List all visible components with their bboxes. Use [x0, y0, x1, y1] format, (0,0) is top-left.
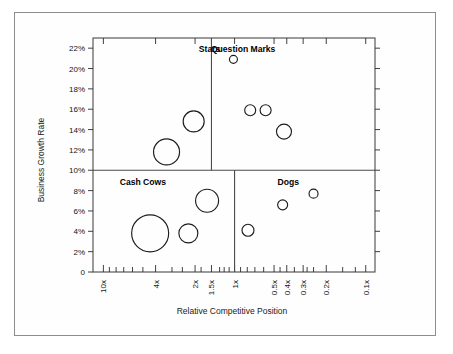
- bubble-question-marks: [276, 124, 291, 139]
- bubble-question-marks: [245, 105, 256, 116]
- bubble-question-marks: [229, 55, 237, 63]
- y-tick-label: 0: [81, 268, 86, 277]
- quadrant-label-question-marks: Question Marks: [211, 44, 276, 54]
- y-axis-tick-labels: 02%4%6%8%10%12%14%16%18%20%22%: [69, 44, 86, 277]
- y-axis-title: Business Growth Rate: [36, 117, 46, 202]
- bubble-question-marks: [260, 105, 271, 116]
- bubble-stars: [183, 111, 204, 132]
- y-tick-label: 12%: [69, 146, 85, 155]
- y-tick-label: 4%: [73, 227, 85, 236]
- bcg-matrix-chart: 02%4%6%8%10%12%14%16%18%20%22% 10x4x2x1.…: [0, 0, 453, 354]
- bubble-cash-cows: [132, 215, 169, 252]
- y-tick-label: 16%: [69, 105, 85, 114]
- data-bubbles: [132, 55, 318, 251]
- bubble-stars: [154, 139, 180, 165]
- bubble-cash-cows: [196, 189, 219, 212]
- bubble-dogs: [242, 224, 254, 236]
- y-tick-label: 18%: [69, 85, 85, 94]
- plot-area-border: [93, 38, 375, 272]
- x-axis-title: Relative Competitive Position: [177, 306, 288, 316]
- y-tick-label: 2%: [73, 248, 85, 257]
- x-tick-label: 1.5x: [207, 280, 216, 295]
- quadrant-divider-lines: [93, 38, 375, 272]
- x-tick-label: 0.5x: [270, 280, 279, 295]
- bubble-dogs: [278, 200, 288, 210]
- x-tick-label: 0.4x: [283, 280, 292, 295]
- x-tick-label: 4x: [152, 280, 161, 288]
- x-axis-tick-labels: 10x4x2x1.5x1x0.5x0.4x0.3x0.2x0.1x: [99, 280, 370, 295]
- y-tick-label: 10%: [69, 166, 85, 175]
- x-tick-label: 1x: [231, 280, 240, 288]
- x-tick-label: 0.1x: [362, 280, 371, 295]
- y-tick-label: 14%: [69, 126, 85, 135]
- quadrant-label-cash-cows: Cash Cows: [120, 177, 167, 187]
- x-tick-label: 0.3x: [299, 280, 308, 295]
- y-tick-label: 20%: [69, 65, 85, 74]
- y-tick-label: 8%: [73, 187, 85, 196]
- bubble-dogs: [309, 189, 318, 198]
- x-tick-label: 2x: [191, 280, 200, 288]
- chart-canvas: 02%4%6%8%10%12%14%16%18%20%22% 10x4x2x1.…: [0, 0, 453, 354]
- y-tick-label: 6%: [73, 207, 85, 216]
- quadrant-label-dogs: Dogs: [277, 177, 299, 187]
- quadrant-labels: StarsQuestion MarksCash CowsDogs: [120, 44, 299, 186]
- x-tick-label: 10x: [99, 280, 108, 293]
- x-tick-label: 0.2x: [322, 280, 331, 295]
- y-tick-label: 22%: [69, 44, 85, 53]
- bubble-cash-cows: [179, 224, 198, 243]
